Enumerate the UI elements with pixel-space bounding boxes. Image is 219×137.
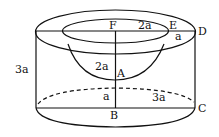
label-D: D — [198, 25, 207, 38]
label-bc: 3a — [152, 91, 166, 104]
label-F: F — [109, 19, 117, 32]
label-height: 3a — [15, 63, 29, 76]
label-ab: a — [103, 90, 110, 103]
label-ed: a — [175, 30, 182, 43]
label-fe: 2a — [138, 19, 152, 32]
label-A: A — [116, 67, 126, 80]
label-B: B — [110, 109, 118, 122]
label-fa: 2a — [95, 60, 109, 73]
label-C: C — [198, 102, 206, 115]
geometry-diagram: F 2a E D a 3a 2a A a 3a B C — [0, 0, 219, 137]
